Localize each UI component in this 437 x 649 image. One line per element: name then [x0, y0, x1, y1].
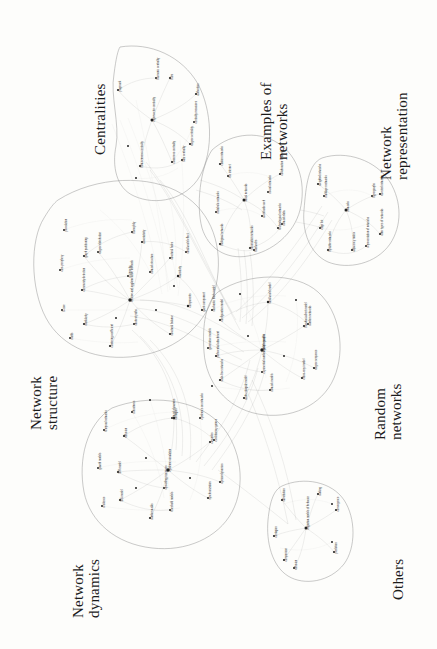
- concept-map-figure: Centralities Examples of networks Networ…: [0, 0, 437, 649]
- hull-centralities: [113, 46, 210, 201]
- network-graph: [0, 0, 437, 649]
- hull-structure: [34, 180, 219, 357]
- hull-others: [268, 481, 353, 581]
- hull-representation: [304, 155, 399, 265]
- graph-nodes: [59, 77, 381, 569]
- cluster-hulls: [34, 46, 399, 581]
- graph-edges: [60, 78, 380, 568]
- hull-dynamics: [82, 400, 240, 549]
